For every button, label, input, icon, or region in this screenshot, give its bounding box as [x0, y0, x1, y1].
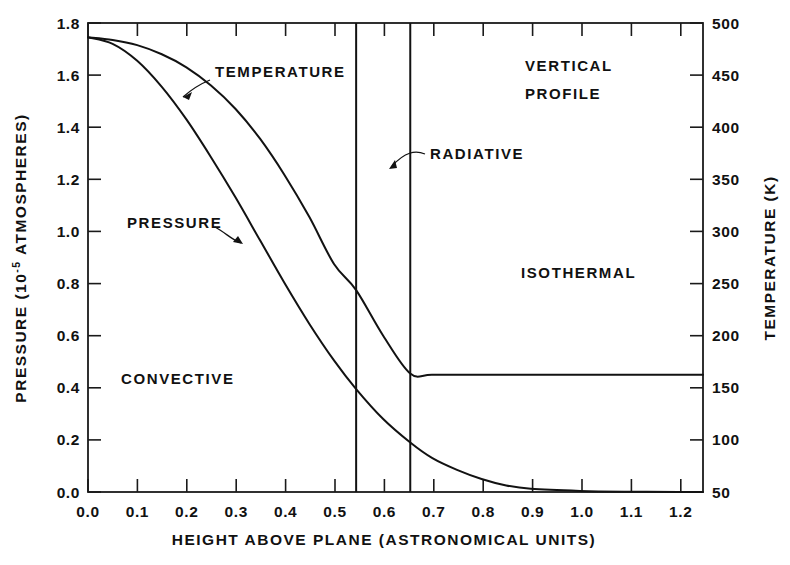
x-tick-label: 0.0 — [76, 503, 99, 520]
x-tick-label: 0.7 — [422, 503, 445, 520]
y-axis-left-title-head: PRESSURE (10 — [12, 273, 29, 403]
x-tick-label: 1.0 — [570, 503, 593, 520]
x-tick-label: 1.2 — [669, 503, 692, 520]
y-right-tick-label: 100 — [712, 431, 740, 448]
svg-text:PRESSURE (10-5 ATMOSPHERES): PRESSURE (10-5 ATMOSPHERES) — [10, 113, 29, 402]
vertical-profile-chart: 0.0 0.1 0.2 0.3 0.4 0.5 0.6 0.7 0.8 0.9 … — [0, 0, 790, 565]
figure-container: 0.0 0.1 0.2 0.3 0.4 0.5 0.6 0.7 0.8 0.9 … — [0, 0, 790, 565]
figure-title-line2: PROFILE — [525, 85, 601, 102]
x-tick-label: 0.1 — [126, 503, 149, 520]
x-axis-ticks — [88, 479, 681, 492]
pressure-curve-label: PRESSURE — [127, 214, 222, 231]
y-right-tick-label: 450 — [712, 67, 740, 84]
y-right-tick-label: 350 — [712, 171, 740, 188]
y-left-tick-labels: 0.0 0.2 0.4 0.6 0.8 1.0 1.2 1.4 1.6 1.8 — [57, 15, 80, 501]
y-axis-left-title-exponent: -5 — [10, 260, 22, 272]
y-right-tick-label: 150 — [712, 379, 740, 396]
y-left-tick-label: 1.8 — [57, 15, 80, 32]
radiative-leader-line — [392, 152, 425, 166]
y-left-tick-label: 0.2 — [57, 431, 80, 448]
y-left-tick-label: 0.0 — [57, 484, 80, 501]
isothermal-region-label: ISOTHERMAL — [521, 264, 636, 281]
y-left-tick-label: 0.6 — [57, 327, 80, 344]
x-tick-labels: 0.0 0.1 0.2 0.3 0.4 0.5 0.6 0.7 0.8 0.9 … — [76, 503, 692, 520]
radiative-region-label: RADIATIVE — [430, 145, 524, 162]
y-right-tick-label: 250 — [712, 275, 740, 292]
y-right-tick-labels: 50 100 150 200 250 300 350 400 450 500 — [712, 15, 740, 501]
y-axis-left-title-tail: ATMOSPHERES) — [12, 113, 29, 260]
x-tick-label: 0.8 — [472, 503, 495, 520]
y-axis-right-ticks — [690, 23, 703, 492]
y-left-tick-label: 1.6 — [57, 67, 80, 84]
plot-frame — [88, 23, 703, 492]
temperature-curve — [88, 37, 703, 376]
y-left-tick-label: 1.4 — [57, 119, 80, 136]
x-axis-ticks-top — [88, 23, 681, 36]
y-left-tick-label: 0.8 — [57, 275, 80, 292]
y-right-tick-label: 200 — [712, 327, 740, 344]
y-left-tick-label: 1.2 — [57, 171, 80, 188]
y-right-tick-label: 300 — [712, 223, 740, 240]
y-right-tick-label: 500 — [712, 15, 740, 32]
y-right-tick-label: 50 — [712, 484, 730, 501]
convective-region-label: CONVECTIVE — [121, 370, 235, 387]
y-axis-right-title: TEMPERATURE (K) — [761, 175, 778, 340]
temperature-curve-label: TEMPERATURE — [215, 63, 346, 80]
x-tick-label: 1.1 — [620, 503, 643, 520]
y-left-tick-label: 1.0 — [57, 223, 80, 240]
x-tick-label: 0.5 — [323, 503, 346, 520]
y-left-tick-label: 0.4 — [57, 379, 80, 396]
x-tick-label: 0.9 — [521, 503, 544, 520]
y-axis-left-title-group: PRESSURE (10-5 ATMOSPHERES) — [10, 113, 29, 402]
x-tick-label: 0.4 — [274, 503, 297, 520]
figure-title-line1: VERTICAL — [525, 57, 613, 74]
x-tick-label: 0.3 — [225, 503, 248, 520]
x-tick-label: 0.6 — [373, 503, 396, 520]
y-axis-left-ticks — [88, 23, 101, 492]
x-tick-label: 0.2 — [175, 503, 198, 520]
y-right-tick-label: 400 — [712, 119, 740, 136]
x-axis-title: HEIGHT ABOVE PLANE (ASTRONOMICAL UNITS) — [172, 531, 596, 548]
